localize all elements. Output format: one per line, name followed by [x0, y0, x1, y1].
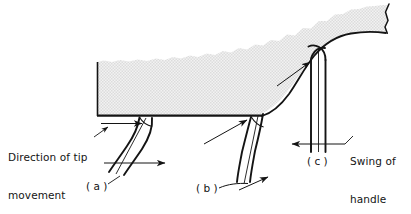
label-direction-line2: movement — [8, 189, 88, 202]
label-swing-line1: Swing of — [350, 155, 396, 168]
diagram-page: Direction of tip movement Swing of handl… — [0, 0, 411, 214]
label-position-b: ( b ) — [196, 182, 218, 194]
swing-of-handle-annotation — [292, 136, 353, 144]
tip-movement-leader — [94, 127, 108, 137]
workpiece-fill — [97, 5, 389, 116]
handle-position-b — [237, 114, 264, 184]
handle-b-edge-left — [237, 117, 251, 182]
position-b-pointer-arrow — [204, 120, 247, 144]
label-direction-line1: Direction of tip — [8, 151, 88, 164]
label-swing-of-handle: Swing of handle — [350, 130, 396, 214]
handle-position-c — [309, 45, 326, 152]
handle-a-edge-left — [109, 118, 140, 173]
position-b-annotation — [219, 177, 268, 190]
workpiece-body — [97, 5, 389, 116]
handle-position-a — [109, 118, 152, 176]
position-a-leader — [108, 176, 120, 184]
label-swing-line2: handle — [350, 193, 396, 206]
label-position-a: ( a ) — [86, 180, 107, 192]
label-position-c: ( c ) — [307, 155, 328, 167]
label-direction-of-tip-movement: Direction of tip movement — [8, 126, 88, 214]
position-b-leader — [219, 183, 248, 188]
